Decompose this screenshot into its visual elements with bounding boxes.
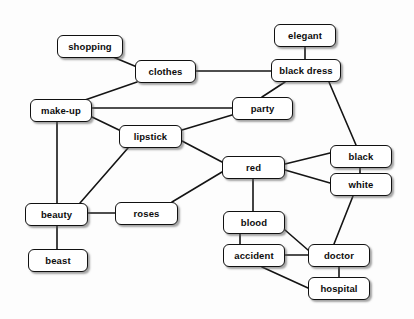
diagram-canvas: shoppingclotheselegantblack dressmake-up…: [0, 0, 414, 319]
edge-lipstick-to-beauty: [80, 148, 128, 203]
node-label-elegant: elegant: [288, 31, 322, 41]
edge-black_dress-to-party: [262, 82, 285, 97]
node-clothes[interactable]: clothes: [135, 60, 196, 83]
edge-party-to-lipstick: [182, 115, 232, 130]
node-label-black_dress: black dress: [279, 66, 332, 76]
node-label-black: black: [349, 152, 374, 162]
node-label-lipstick: lipstick: [134, 132, 168, 142]
edge-red-to-white: [285, 170, 330, 183]
node-lipstick[interactable]: lipstick: [119, 125, 182, 148]
node-beauty[interactable]: beauty: [25, 203, 88, 226]
edge-clothes-to-make_up: [85, 82, 137, 100]
node-label-white: white: [349, 180, 374, 190]
node-doctor[interactable]: doctor: [308, 244, 370, 267]
node-label-doctor: doctor: [324, 251, 354, 261]
node-hospital[interactable]: hospital: [308, 277, 370, 300]
node-label-beast: beast: [45, 256, 70, 266]
node-make_up[interactable]: make-up: [30, 99, 92, 122]
node-elegant[interactable]: elegant: [274, 24, 336, 47]
edge-red-to-roses: [172, 172, 222, 202]
node-beast[interactable]: beast: [28, 249, 88, 272]
node-roses[interactable]: roses: [115, 202, 178, 225]
node-black[interactable]: black: [330, 145, 392, 168]
node-label-hospital: hospital: [320, 284, 357, 294]
node-white[interactable]: white: [330, 173, 392, 196]
node-label-blood: blood: [241, 218, 267, 228]
node-label-party: party: [251, 104, 275, 114]
node-red[interactable]: red: [222, 156, 285, 179]
edge-black_dress-to-black: [329, 82, 356, 145]
edge-lipstick-to-red: [182, 141, 222, 162]
edge-blood-to-doctor: [285, 230, 308, 250]
edge-accident-to-hospital: [262, 267, 308, 288]
node-black_dress[interactable]: black dress: [271, 59, 341, 82]
node-accident[interactable]: accident: [223, 244, 285, 267]
node-label-roses: roses: [134, 209, 160, 219]
node-label-make_up: make-up: [41, 106, 81, 116]
node-label-red: red: [246, 163, 261, 173]
node-label-beauty: beauty: [41, 210, 72, 220]
edge-make_up-to-lipstick: [92, 117, 119, 130]
node-blood[interactable]: blood: [223, 211, 285, 234]
node-label-clothes: clothes: [149, 67, 183, 77]
node-label-shopping: shopping: [68, 42, 112, 52]
node-party[interactable]: party: [232, 97, 293, 120]
node-shopping[interactable]: shopping: [57, 35, 123, 58]
edge-white-to-doctor: [334, 196, 353, 244]
node-label-accident: accident: [234, 251, 273, 261]
edge-red-to-black: [285, 153, 330, 164]
